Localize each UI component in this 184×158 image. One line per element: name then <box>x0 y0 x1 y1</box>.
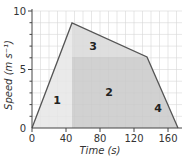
x-tick-80: 80 <box>94 133 107 144</box>
y-tick-5: 5 <box>20 64 26 75</box>
x-tick-160: 160 <box>158 133 177 144</box>
x-tick-0: 0 <box>29 133 35 144</box>
y-tick-10: 10 <box>13 6 26 17</box>
region-1-label: 1 <box>53 94 61 107</box>
x-tick-40: 40 <box>60 133 73 144</box>
y-tick-0: 0 <box>20 123 26 134</box>
y-axis-title: Speed (m s⁻¹) <box>3 40 14 110</box>
speed-time-chart: 10 5 0 0 40 80 120 160 Time (s) Speed (m… <box>0 0 184 158</box>
x-axis-title: Time (s) <box>80 145 121 156</box>
region-4-label: 4 <box>154 102 162 115</box>
region-3-label: 3 <box>89 40 97 53</box>
x-tick-120: 120 <box>124 133 143 144</box>
region-2-label: 2 <box>105 86 113 99</box>
